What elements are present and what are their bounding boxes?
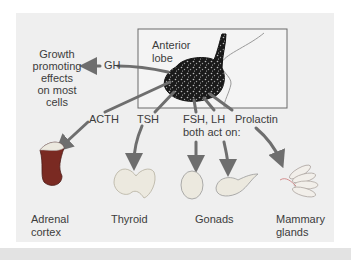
mammary-label-line2: glands <box>276 226 308 238</box>
mammary-glands-icon <box>280 163 318 199</box>
tsh-label: TSH <box>137 113 159 125</box>
gh-effect-line: Growth <box>28 48 86 60</box>
prolactin-arrow <box>256 128 280 160</box>
gh-effect-line: promoting <box>28 60 86 72</box>
gonads-label: Gonads <box>195 213 234 225</box>
tsh-arrow <box>134 126 142 162</box>
thyroid-label: Thyroid <box>111 213 148 225</box>
gh-effect-line: effects <box>28 72 86 84</box>
adrenal-icon <box>40 142 64 185</box>
fsh-lh-note: both act on: <box>183 126 241 138</box>
mammary-label-line1: Mammary <box>276 213 325 225</box>
fsh-lh-label: FSH, LH <box>183 113 225 125</box>
adrenal-label-line2: cortex <box>31 226 61 238</box>
prolactin-label: Prolactin <box>235 113 278 125</box>
fsh-line-1 <box>194 100 196 112</box>
gh-effect-line: cells <box>28 96 86 108</box>
anterior-label-line1: Anterior <box>152 39 191 51</box>
acth-label: ACTH <box>89 113 119 125</box>
gonads-icon <box>181 171 258 199</box>
gh-effect-line: on most <box>28 84 86 96</box>
gh-effect-label: Growth promoting effects on most cells <box>28 48 86 108</box>
anterior-label-line2: lobe <box>152 52 173 64</box>
acth-arrow <box>62 122 88 146</box>
thyroid-icon <box>114 169 155 198</box>
gonad-arrow-2 <box>224 142 228 168</box>
gh-label: GH <box>104 59 121 71</box>
adrenal-label-line1: Adrenal <box>31 213 69 225</box>
